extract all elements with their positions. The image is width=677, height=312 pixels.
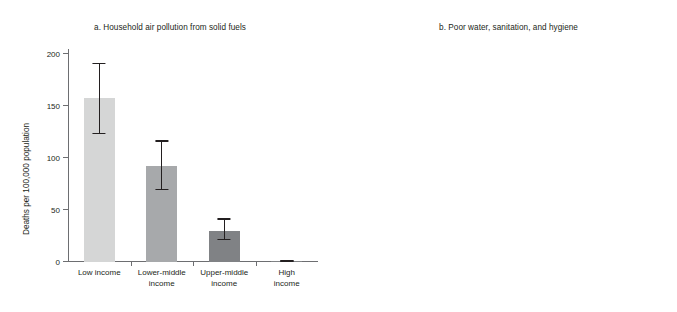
- panel-a-title: a. Household air pollution from solid fu…: [0, 23, 340, 32]
- panel-a-x-tick-3: [256, 262, 257, 266]
- panel-a-error-cap-bottom-2: [218, 239, 231, 241]
- figure-bar-charts: a. Household air pollution from solid fu…: [0, 0, 677, 312]
- panel-a-x-category-label-0: Low income: [78, 268, 121, 279]
- panel-a-error-cap-top-2: [218, 218, 231, 220]
- panel-a-error-cap-top-1: [155, 140, 168, 142]
- panel-a-error-cap-top-0: [93, 63, 106, 65]
- panel-a-y-axis-line: [68, 49, 69, 262]
- panel-a-plot-area: 050100150200Low incomeLower-middleincome…: [68, 49, 318, 262]
- panel-a-y-tick-label-3: 150: [47, 102, 60, 111]
- panel-a-y-axis-title: Deaths per 100,000 population: [22, 123, 31, 235]
- panel-a-error-bar-3: [286, 260, 287, 262]
- panel-a-x-tick-1: [131, 262, 132, 266]
- panel-a-error-bar-0: [99, 63, 100, 135]
- panel-a-error-bar-2: [224, 218, 225, 240]
- panel-b-title: b. Poor water, sanitation, and hygiene: [340, 23, 677, 32]
- panel-a-y-tick-label-1: 50: [51, 206, 60, 215]
- panel-a-y-tick-label-2: 100: [47, 154, 60, 163]
- panel-a-y-tick-4: [63, 53, 68, 54]
- panel-a-y-tick-label-4: 200: [47, 50, 60, 59]
- panel-a-x-category-label-2: Upper-middleincome: [200, 268, 248, 289]
- panel-a-y-tick-label-0: 0: [56, 258, 60, 267]
- panel-a-error-cap-bottom-3: [280, 260, 293, 262]
- panel-a-x-tick-2: [193, 262, 194, 266]
- panel-a-y-tick-0: [63, 261, 68, 262]
- panel-a-x-category-label-1: Lower-middleincome: [138, 268, 186, 289]
- panel-a-error-bar-1: [161, 140, 162, 190]
- panel-a-x-category-label-3: High income: [271, 268, 302, 289]
- panel-a-y-tick-1: [63, 209, 68, 210]
- panel-b: b. Poor water, sanitation, and hygiene D…: [340, 0, 677, 312]
- panel-a-y-tick-3: [63, 105, 68, 106]
- panel-a-error-cap-bottom-1: [155, 189, 168, 191]
- panel-a: a. Household air pollution from solid fu…: [0, 0, 340, 312]
- panel-a-y-tick-2: [63, 157, 68, 158]
- panel-a-error-cap-bottom-0: [93, 133, 106, 135]
